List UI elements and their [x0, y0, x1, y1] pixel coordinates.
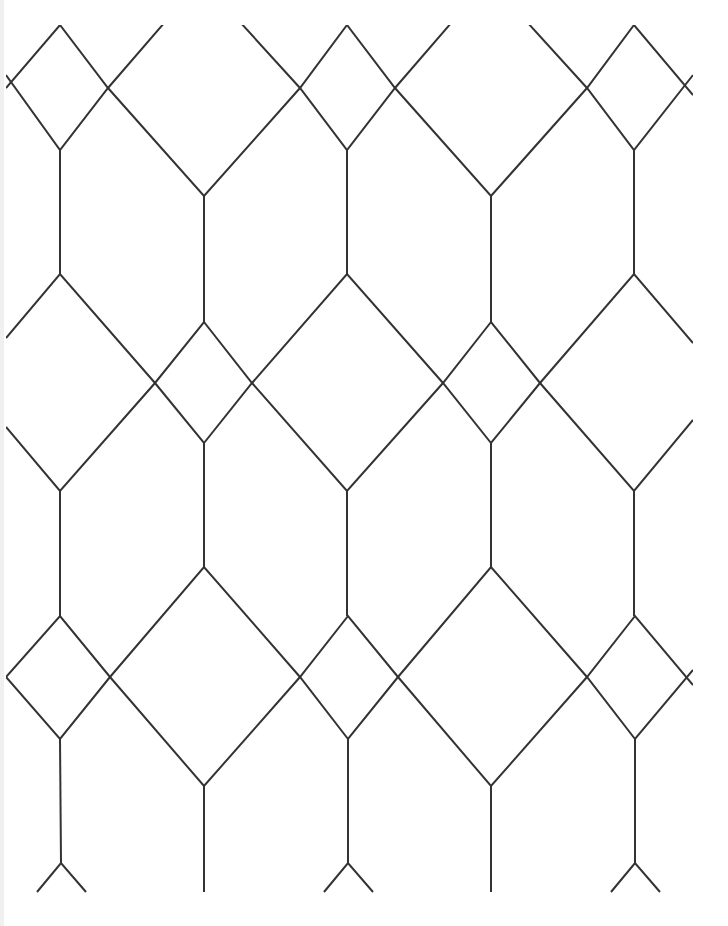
lattice-line-23	[37, 863, 86, 892]
lattice-line-24	[324, 863, 373, 892]
lattice-line-1	[6, 22, 165, 150]
lattice-line-25	[611, 863, 660, 892]
lattice-line-16	[6, 616, 693, 786]
lattice-pattern-canvas	[0, 0, 728, 926]
lattice-line-18	[60, 739, 61, 863]
lattice-line-2	[240, 22, 452, 150]
lattice-line-3	[527, 22, 693, 150]
diamond-lattice-lines	[6, 22, 693, 892]
lattice-line-10	[6, 322, 693, 491]
lattice-line-17	[6, 567, 693, 739]
lattice-line-9	[6, 274, 693, 443]
lattice-line-0	[6, 25, 693, 196]
